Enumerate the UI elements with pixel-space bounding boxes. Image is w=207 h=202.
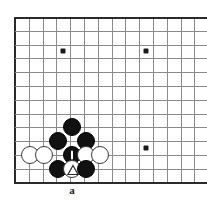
star-point [144, 146, 149, 151]
white-stone [35, 146, 53, 164]
grid-line-horizontal [15, 31, 207, 32]
go-board-diagram: a [0, 0, 207, 202]
grid-line-horizontal [15, 86, 207, 87]
grid-line-horizontal [15, 169, 207, 170]
white-stone [91, 146, 109, 164]
board-top-edge [15, 17, 207, 19]
star-point [61, 49, 66, 54]
grid-line-horizontal [15, 100, 207, 101]
grid-line-horizontal [15, 58, 207, 59]
black-stone [49, 132, 67, 150]
grid-line-horizontal [15, 45, 207, 46]
grid-line-horizontal [15, 127, 207, 128]
star-point [144, 49, 149, 54]
board-bottom-edge [14, 182, 207, 184]
grid-line-horizontal [15, 141, 207, 142]
move-marker-tick-icon [71, 151, 73, 160]
black-stone [77, 160, 95, 178]
grid-line-horizontal [15, 114, 207, 115]
coordinate-label-a: a [69, 185, 75, 196]
black-stone [63, 118, 81, 136]
grid-line-horizontal [15, 72, 207, 73]
